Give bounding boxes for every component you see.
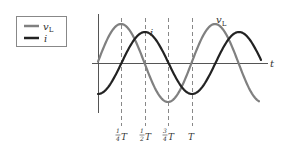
tick-quarter-t: 1 4 T	[115, 127, 128, 142]
svg-text:4: 4	[162, 135, 167, 142]
tick-full-t: T	[188, 132, 195, 142]
svg-text:T: T	[121, 132, 128, 142]
svg-text:2: 2	[139, 135, 144, 142]
tick-three-quarter-t: 3 4 T	[162, 127, 175, 142]
svg-text:3: 3	[163, 127, 167, 134]
svg-text:T: T	[188, 132, 195, 142]
svg-text:1: 1	[116, 127, 120, 134]
tick-half-t: 1 2 T	[139, 127, 152, 142]
svg-text:T: T	[168, 132, 175, 142]
x-tick-labels: 1 4 T 1 2 T 3 4 T T	[115, 127, 195, 142]
x-axis-label: t	[270, 58, 275, 69]
svg-text:1: 1	[140, 127, 144, 134]
svg-text:T: T	[145, 132, 152, 142]
inductor-phase-diagram: vL i t i vL 1 4 T 1 2 T 3	[0, 0, 287, 145]
legend-box	[17, 17, 67, 47]
legend-current-label: i	[44, 33, 47, 44]
legend: vL i	[17, 17, 67, 47]
svg-text:4: 4	[115, 135, 120, 142]
current-curve-label: i	[150, 27, 153, 38]
